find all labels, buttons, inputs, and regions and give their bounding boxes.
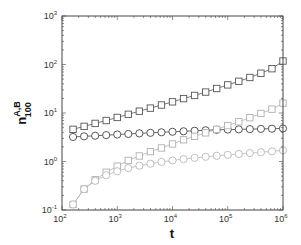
x-tick-label: 102	[53, 213, 67, 224]
circle-marker	[125, 130, 132, 137]
square-marker	[81, 123, 87, 129]
circle-marker	[81, 133, 88, 140]
square-marker	[202, 89, 208, 95]
square-marker	[136, 108, 142, 114]
square-marker	[147, 148, 153, 154]
circle-marker	[69, 133, 76, 140]
circle-marker	[136, 130, 143, 137]
square-marker	[269, 106, 275, 112]
series-light-circles	[69, 147, 286, 208]
square-marker	[169, 99, 175, 105]
circle-marker	[202, 153, 209, 160]
square-marker	[236, 119, 242, 125]
circle-marker	[92, 177, 99, 184]
x-tick-label: 105	[219, 213, 233, 224]
square-marker	[158, 102, 164, 108]
y-axis-label: nA,B100	[12, 101, 33, 125]
circle-marker	[213, 152, 220, 159]
square-marker	[191, 92, 197, 98]
circle-marker	[81, 185, 88, 192]
circle-marker	[169, 157, 176, 164]
square-marker	[247, 115, 253, 121]
square-marker	[70, 126, 76, 132]
square-marker	[147, 105, 153, 111]
square-marker	[125, 157, 131, 163]
circle-marker	[92, 132, 99, 139]
series-layer	[69, 58, 286, 208]
circle-marker	[246, 126, 253, 133]
y-tick-label: 103	[44, 10, 58, 21]
square-marker	[202, 130, 208, 136]
y-label-superscript: A,B	[12, 101, 22, 117]
circle-marker	[257, 149, 264, 156]
square-marker	[225, 82, 231, 88]
y-tick-label: 101	[44, 107, 58, 118]
square-marker	[225, 122, 231, 128]
circle-marker	[147, 160, 154, 167]
chart: 10210310410510610-1100101102103 t nA,B10…	[0, 0, 301, 245]
square-marker	[214, 85, 220, 91]
circle-marker	[180, 156, 187, 163]
circle-marker	[169, 128, 176, 135]
circle-marker	[191, 154, 198, 161]
square-marker	[191, 133, 197, 139]
circle-marker	[69, 201, 76, 208]
square-marker	[180, 137, 186, 143]
circle-marker	[268, 125, 275, 132]
circle-marker	[235, 126, 242, 133]
square-marker	[180, 95, 186, 101]
square-marker	[269, 65, 275, 71]
circle-marker	[125, 165, 132, 172]
circle-marker	[235, 150, 242, 157]
square-marker	[214, 126, 220, 132]
square-marker	[103, 117, 109, 123]
circle-marker	[158, 129, 165, 136]
circle-marker	[114, 168, 121, 175]
square-marker	[136, 153, 142, 159]
circle-marker	[103, 132, 110, 139]
circle-marker	[224, 151, 231, 158]
square-marker	[114, 114, 120, 120]
circle-marker	[103, 172, 110, 179]
square-marker	[125, 111, 131, 117]
square-marker	[236, 78, 242, 84]
square-marker	[247, 74, 253, 80]
y-tick-label: 102	[44, 59, 58, 70]
square-marker	[258, 70, 264, 76]
x-tick-label: 106	[274, 213, 288, 224]
square-marker	[92, 120, 98, 126]
x-tick-label: 103	[109, 213, 123, 224]
series-dark-circles	[69, 125, 286, 141]
square-marker	[158, 145, 164, 151]
x-axis-label: t	[170, 226, 175, 241]
circle-marker	[268, 148, 275, 155]
circle-marker	[114, 131, 121, 138]
y-label-subscript: 100	[23, 102, 33, 117]
circle-marker	[147, 129, 154, 136]
svg-text:nA,B100: nA,B100	[12, 101, 33, 125]
circle-marker	[257, 125, 264, 132]
square-marker	[169, 141, 175, 147]
y-tick-label: 100	[44, 156, 58, 167]
circle-marker	[136, 162, 143, 169]
x-tick-label: 104	[164, 213, 178, 224]
circle-marker	[158, 158, 165, 165]
series-dark-squares	[70, 58, 286, 133]
circle-marker	[180, 128, 187, 135]
circle-marker	[246, 150, 253, 157]
square-marker	[258, 110, 264, 116]
